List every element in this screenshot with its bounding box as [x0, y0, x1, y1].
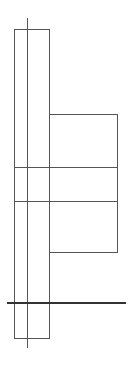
line-diagram [0, 0, 132, 365]
column-rect [15, 30, 50, 339]
side-box [50, 115, 118, 253]
